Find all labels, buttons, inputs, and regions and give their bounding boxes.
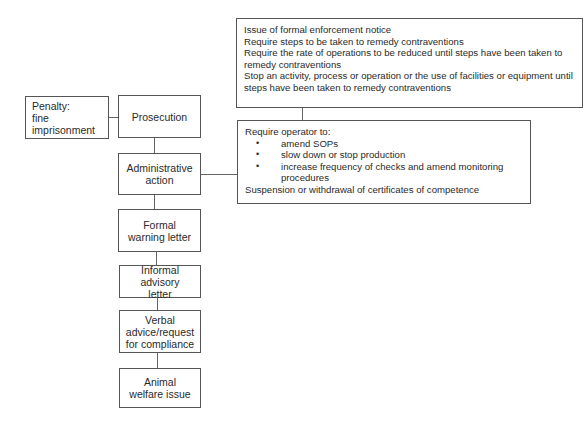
enforcement-line-1: Issue of formal enforcement notice [244, 24, 575, 36]
enforcement-to-operator-connector [302, 107, 303, 120]
formal-warning-letter-label: Formal warning letter [127, 219, 192, 243]
enforcement-notice-box: Issue of formal enforcement notice Requi… [236, 18, 583, 108]
operator-bullet-amend-sops: amend SOPs [245, 138, 523, 150]
enforcement-line-2: Require steps to be taken to remedy cont… [244, 36, 575, 48]
connector-informal-verbal [157, 298, 158, 310]
connector-verbal-welfare [157, 353, 158, 368]
enforcement-line-3: Require the rate of operations to be red… [244, 47, 575, 70]
penalty-item-imprisonment: imprisonment [32, 124, 102, 136]
operator-requirements-box: Require operator to: amend SOPs slow dow… [237, 120, 531, 204]
formal-warning-letter-box: Formal warning letter [118, 209, 201, 252]
penalty-title: Penalty: [32, 100, 102, 112]
penalty-item-fine: fine [32, 112, 102, 124]
connector-admin-formal [154, 195, 155, 209]
verbal-advice-label: Verbal advice/request for compliance [126, 314, 194, 350]
administrative-action-label: Administrative action [127, 162, 193, 186]
admin-to-operator-connector [200, 174, 237, 175]
operator-bullet-list: amend SOPs slow down or stop production … [245, 138, 523, 184]
prosecution-label: Prosecution [132, 111, 187, 123]
operator-footer: Suspension or withdrawal of certificates… [245, 184, 523, 196]
informal-advisory-letter-box: Informal advisory letter [119, 265, 201, 298]
penalty-connector [108, 117, 118, 118]
verbal-advice-box: Verbal advice/request for compliance [119, 310, 201, 353]
animal-welfare-issue-box: Animal welfare issue [119, 368, 201, 408]
enforcement-line-4: Stop an activity, process or operation o… [244, 70, 575, 93]
prosecution-box: Prosecution [118, 95, 201, 138]
informal-advisory-letter-label: Informal advisory letter [130, 264, 190, 300]
operator-bullet-slow-down: slow down or stop production [245, 149, 523, 161]
operator-bullet-increase-checks: increase frequency of checks and amend m… [245, 161, 523, 184]
administrative-action-box: Administrative action [118, 153, 201, 195]
penalty-box: Penalty: fine imprisonment [25, 96, 109, 139]
animal-welfare-issue-label: Animal welfare issue [126, 376, 194, 400]
operator-intro: Require operator to: [245, 126, 523, 138]
connector-prosecution-admin [154, 138, 155, 153]
